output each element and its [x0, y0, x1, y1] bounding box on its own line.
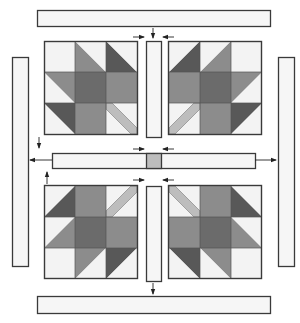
block-cell [169, 217, 200, 248]
quilt-diagram [0, 0, 300, 323]
block-cell [75, 186, 106, 217]
block-cell [75, 72, 106, 103]
block-cell [200, 103, 231, 134]
block-cell [75, 103, 106, 134]
block-cell [106, 41, 137, 72]
bottom-border-strip [38, 297, 271, 314]
block-cell [231, 41, 262, 72]
block-cell [75, 217, 106, 248]
block-cell [169, 103, 200, 134]
bottom-vertical-sashing [147, 187, 162, 282]
block-cell [200, 186, 231, 217]
block-cell [231, 186, 262, 217]
left-border-strip [13, 58, 29, 267]
block-cell [75, 41, 106, 72]
block-cell [44, 248, 75, 279]
block-cell [44, 103, 75, 134]
block-cell [231, 248, 262, 279]
block-cell [44, 217, 75, 248]
block-bottom-right [169, 186, 263, 280]
block-cell [44, 41, 75, 72]
block-bottom-left [44, 186, 138, 280]
block-cell [231, 217, 262, 248]
block-cell [44, 72, 75, 103]
block-cell [44, 186, 75, 217]
block-top-left [44, 41, 138, 135]
top-vertical-sashing [147, 42, 162, 138]
block-cell [106, 103, 137, 134]
center-cornerstone [147, 154, 162, 169]
top-border-strip [38, 11, 271, 27]
block-cell [169, 186, 200, 217]
block-cell [169, 72, 200, 103]
block-cell [75, 248, 106, 279]
block-cell [169, 41, 200, 72]
block-cell [200, 41, 231, 72]
block-cell [106, 248, 137, 279]
block-cell [106, 72, 137, 103]
block-cell [106, 186, 137, 217]
block-cell [231, 72, 262, 103]
block-cell [231, 103, 262, 134]
block-cell [200, 248, 231, 279]
block-cell [169, 248, 200, 279]
block-cell [106, 217, 137, 248]
block-top-right [169, 41, 263, 135]
right-border-strip [279, 58, 295, 267]
quilt-assembly-canvas [0, 0, 300, 323]
block-cell [200, 72, 231, 103]
block-cell [200, 217, 231, 248]
